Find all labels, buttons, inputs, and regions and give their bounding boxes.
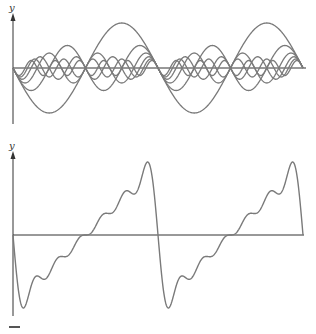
sum-chart-svg: y: [0, 138, 316, 318]
harmonics-plot: y: [0, 0, 316, 130]
harmonics-chart-svg: y: [0, 0, 316, 130]
y-axis-label: y: [8, 140, 15, 151]
harmonic-curves: [13, 23, 303, 113]
y-axis-label: y: [8, 2, 15, 13]
y-axis-arrow-icon: [11, 13, 16, 21]
y-axis-arrow-icon: [11, 151, 16, 159]
corner-mark: [9, 326, 20, 328]
sum-plot: y: [0, 138, 316, 318]
